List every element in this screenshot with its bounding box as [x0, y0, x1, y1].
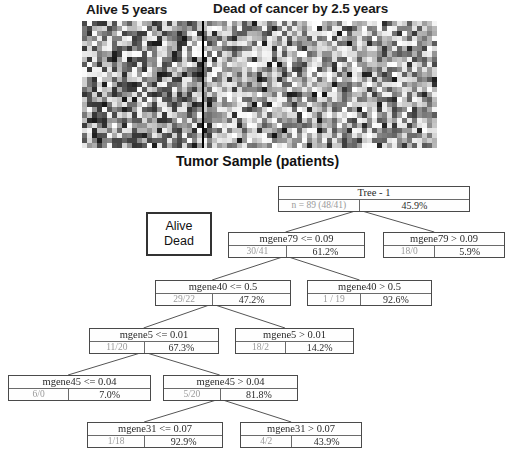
tree-node-mgene5_gt: mgene5 > 0.0118/214.2% [235, 328, 354, 354]
tree-node-count: 30/41 [229, 246, 287, 257]
tree-node-condition: mgene31 <= 0.07 [88, 423, 222, 436]
decision-tree-section: Alive Dead Tree - 1n = 89 (48/41)45.9%mg… [0, 0, 515, 460]
tree-node-mgene40_gt: mgene40 > 0.51 / 1992.6% [307, 280, 432, 306]
tree-node-percent: 43.9% [292, 436, 361, 447]
tree-edge [359, 210, 435, 232]
tree-node-percent: 45.9% [360, 200, 469, 211]
tree-node-count: 18/2 [236, 342, 286, 353]
tree-edge [212, 304, 285, 328]
tree-node-stats: 6/07.0% [9, 389, 150, 400]
tree-node-stats: 30/4161.2% [229, 246, 364, 257]
legend-label-dead: Dead [164, 234, 194, 249]
tree-node-mgene40_le: mgene40 <= 0.529/2247.2% [155, 280, 291, 306]
tree-node-condition: mgene5 > 0.01 [236, 329, 353, 342]
tree-node-percent: 67.3% [145, 342, 218, 353]
tree-node-percent: 81.8% [221, 389, 297, 400]
tree-node-count: 5/20 [164, 389, 221, 400]
tree-node-mgene79_gt: mgene79 > 0.0918/05.9% [383, 232, 505, 258]
tree-node-percent: 7.0% [69, 389, 150, 400]
tree-node-percent: 14.2% [286, 342, 353, 353]
tree-node-condition: mgene40 <= 0.5 [156, 281, 290, 294]
tree-edge [68, 352, 144, 375]
tree-node-count: 29/22 [156, 294, 213, 305]
tree-node-count: 18/0 [384, 246, 435, 257]
tree-node-percent: 47.2% [213, 294, 290, 305]
tree-node-condition: mgene79 <= 0.09 [229, 233, 364, 246]
tree-node-count: n = 89 (48/41) [279, 200, 360, 211]
tree-edge [212, 256, 285, 280]
tree-node-condition: mgene45 <= 0.04 [9, 376, 150, 389]
tree-node-stats: 18/05.9% [384, 246, 504, 257]
tree-node-count: 6/0 [9, 389, 69, 400]
tree-node-stats: 5/2081.8% [164, 389, 297, 400]
tree-node-stats: 18/214.2% [236, 342, 353, 353]
tree-node-stats: 4/243.9% [241, 436, 361, 447]
tree-node-stats: 1/1892.9% [88, 436, 222, 447]
tree-edge [286, 256, 360, 280]
tree-node-count: 1 / 19 [308, 294, 361, 305]
tree-node-percent: 92.9% [145, 436, 222, 447]
tree-node-percent: 5.9% [435, 246, 504, 257]
tree-edge [144, 399, 220, 422]
legend-box: Alive Dead [146, 212, 212, 256]
tree-node-mgene31_le: mgene31 <= 0.071/1892.9% [87, 422, 223, 448]
tree-node-condition: mgene40 > 0.5 [308, 281, 431, 294]
tree-edge [144, 352, 220, 375]
tree-edge [144, 304, 213, 328]
tree-node-stats: 1 / 1992.6% [308, 294, 431, 305]
tree-node-condition: Tree - 1 [279, 187, 469, 200]
tree-node-count: 4/2 [241, 436, 292, 447]
tree-edge [286, 210, 359, 232]
tree-node-percent: 92.6% [361, 294, 431, 305]
tree-node-mgene79_le: mgene79 <= 0.0930/4161.2% [228, 232, 365, 258]
tree-node-mgene5_le: mgene5 <= 0.0111/2067.3% [89, 328, 219, 354]
tree-node-mgene45_le: mgene45 <= 0.046/07.0% [8, 375, 151, 401]
tree-node-condition: mgene45 > 0.04 [164, 376, 297, 389]
tree-node-percent: 61.2% [287, 246, 364, 257]
tree-node-count: 1/18 [88, 436, 145, 447]
tree-node-root: Tree - 1n = 89 (48/41)45.9% [278, 186, 470, 212]
tree-node-condition: mgene79 > 0.09 [384, 233, 504, 246]
tree-node-stats: 11/2067.3% [90, 342, 218, 353]
tree-edge [220, 399, 292, 422]
tree-node-mgene31_gt: mgene31 > 0.074/243.9% [240, 422, 362, 448]
tree-node-stats: n = 89 (48/41)45.9% [279, 200, 469, 211]
tree-node-count: 11/20 [90, 342, 145, 353]
tree-node-mgene45_gt: mgene45 > 0.045/2081.8% [163, 375, 298, 401]
legend-label-alive: Alive [165, 219, 192, 234]
tree-node-condition: mgene31 > 0.07 [241, 423, 361, 436]
tree-node-stats: 29/2247.2% [156, 294, 290, 305]
tree-node-condition: mgene5 <= 0.01 [90, 329, 218, 342]
